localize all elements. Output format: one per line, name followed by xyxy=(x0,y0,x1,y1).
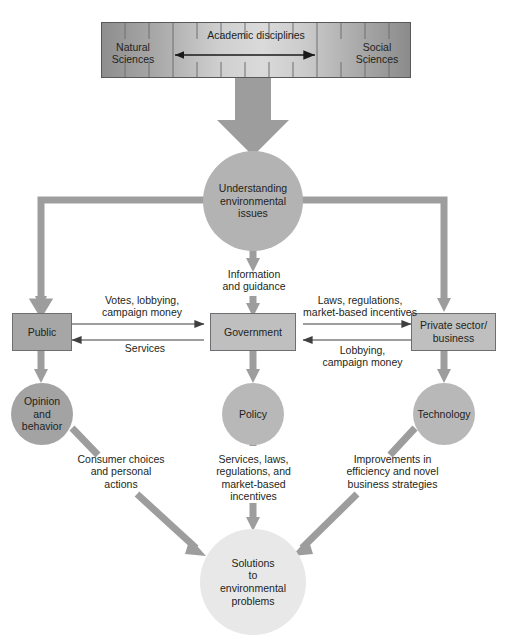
lobbying-line1: Lobbying, xyxy=(305,344,420,356)
bar-label-academic-disciplines: Academic disciplines xyxy=(176,29,336,41)
arrow-policylabel-to-solutions xyxy=(246,503,260,531)
node-solutions-to-environmental-problems: Solutions to environmental problems xyxy=(200,529,306,635)
solutions-line1: Solutions xyxy=(220,557,286,570)
hub-line2: environmental xyxy=(219,195,287,208)
edge-label-improvements-efficiency: Improvements in efficiency and novel bus… xyxy=(325,453,460,490)
private-line2: business xyxy=(420,332,487,345)
info-line2: and guidance xyxy=(198,280,310,292)
servlaws-line1: Services, laws, xyxy=(196,453,311,465)
node-technology: Technology xyxy=(413,383,475,445)
servlaws-line4: incentives xyxy=(196,490,311,502)
natural-line1: Natural xyxy=(103,41,163,53)
laws-line2: market-based incentives xyxy=(295,306,425,318)
opinion-line1: Opinion xyxy=(22,395,62,408)
edge-label-services: Services xyxy=(100,342,190,354)
consumer-line1: Consumer choices xyxy=(61,453,181,465)
node-public: Public xyxy=(12,313,72,351)
policy-label: Policy xyxy=(239,408,267,421)
solutions-line3: environmental xyxy=(220,582,286,595)
opinion-line3: behavior xyxy=(22,420,62,433)
improve-line3: business strategies xyxy=(325,478,460,490)
hub-line3: issues xyxy=(219,207,287,220)
edge-label-laws-regulations: Laws, regulations, market-based incentiv… xyxy=(295,294,425,319)
arrow-opinion-diagonal xyxy=(72,428,98,455)
votes-line1: Votes, lobbying, xyxy=(82,294,202,306)
hub-line1: Understanding xyxy=(219,182,287,195)
government-label: Government xyxy=(224,326,282,339)
node-opinion-and-behavior: Opinion and behavior xyxy=(11,383,73,445)
improve-line2: efficiency and novel xyxy=(325,465,460,477)
node-policy: Policy xyxy=(222,383,284,445)
edge-label-consumer-choices: Consumer choices and personal actions xyxy=(61,453,181,490)
edge-label-lobbying-campaign-money: Lobbying, campaign money xyxy=(305,344,420,369)
social-line1: Social xyxy=(347,41,407,53)
social-line2: Sciences xyxy=(347,53,407,65)
improve-line1: Improvements in xyxy=(325,453,460,465)
private-line1: Private sector/ xyxy=(420,319,487,332)
laws-line1: Laws, regulations, xyxy=(295,294,425,306)
arrow-bar-to-hub xyxy=(217,78,289,156)
edge-label-services-laws-regulations: Services, laws, regulations, and market-… xyxy=(196,453,311,503)
edge-label-information-and-guidance: Information and guidance xyxy=(198,268,310,293)
technology-label: Technology xyxy=(417,408,470,421)
arrow-public-to-opinion xyxy=(34,351,48,383)
edge-label-votes-lobbying: Votes, lobbying, campaign money xyxy=(82,294,202,319)
arrow-government-to-policy xyxy=(246,351,260,383)
info-line1: Information xyxy=(198,268,310,280)
arrow-improvements-to-solutions xyxy=(292,494,357,556)
solutions-line4: problems xyxy=(220,595,286,608)
public-label: Public xyxy=(28,326,57,339)
consumer-line2: and personal xyxy=(61,465,181,477)
servlaws-line3: market-based xyxy=(196,478,311,490)
consumer-line3: actions xyxy=(61,478,181,490)
votes-line2: campaign money xyxy=(82,306,202,318)
node-understanding-environmental-issues: Understanding environmental issues xyxy=(203,151,303,251)
bar-label-natural-sciences: Natural Sciences xyxy=(103,41,163,66)
diagram-canvas: Natural Sciences Social Sciences Academi… xyxy=(0,0,506,638)
arrow-technology-diagonal xyxy=(390,428,415,455)
lobbying-line2: campaign money xyxy=(305,356,420,368)
bar-label-social-sciences: Social Sciences xyxy=(347,41,407,66)
node-government: Government xyxy=(210,313,296,351)
natural-line2: Sciences xyxy=(103,53,163,65)
arrow-private-to-technology xyxy=(437,351,451,383)
solutions-line2: to xyxy=(220,569,286,582)
opinion-line2: and xyxy=(22,408,62,421)
arrow-consumer-to-solutions xyxy=(137,494,206,556)
servlaws-line2: regulations, and xyxy=(196,465,311,477)
